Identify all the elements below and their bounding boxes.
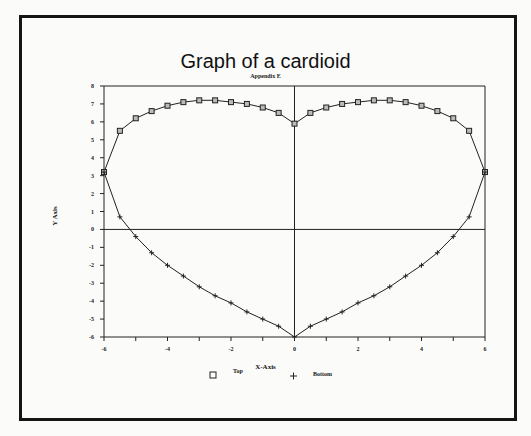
square-marker-icon xyxy=(117,128,122,133)
x-tick-label: -2 xyxy=(229,346,234,352)
y-tick-label: 2 xyxy=(91,191,94,197)
square-marker-icon xyxy=(149,109,154,114)
square-marker-icon xyxy=(324,105,329,110)
x-tick-label: 4 xyxy=(420,346,423,352)
square-marker-icon xyxy=(244,101,249,106)
y-tick-label: 1 xyxy=(91,209,94,215)
y-tick-label: -3 xyxy=(89,280,94,286)
plus-marker-icon xyxy=(324,317,329,322)
square-marker-icon xyxy=(165,103,170,108)
square-marker-icon xyxy=(435,109,440,114)
legend-bottom-marker-icon xyxy=(290,373,297,380)
square-marker-icon xyxy=(387,98,392,103)
square-marker-icon xyxy=(419,103,424,108)
y-axis-label: Y Axis xyxy=(51,206,59,225)
plus-marker-icon xyxy=(229,300,234,305)
plus-marker-icon xyxy=(213,293,218,298)
y-tick-label: 5 xyxy=(91,137,94,143)
y-tick-label: -5 xyxy=(89,316,94,322)
square-marker-icon xyxy=(451,116,456,121)
y-tick-label: 4 xyxy=(91,155,94,161)
plus-marker-icon xyxy=(371,293,376,298)
y-tick-label: 3 xyxy=(91,173,94,179)
square-marker-icon xyxy=(340,101,345,106)
square-marker-icon xyxy=(181,100,186,105)
legend-bottom-label: Bottom xyxy=(313,371,332,377)
x-axis-label: X-Axis xyxy=(0,363,531,371)
square-marker-icon xyxy=(260,105,265,110)
y-tick-label: -6 xyxy=(89,334,94,340)
x-tick-label: 0 xyxy=(293,346,296,352)
y-tick-label: 7 xyxy=(91,101,94,107)
square-marker-icon xyxy=(308,110,313,115)
x-tick-label: 2 xyxy=(357,346,360,352)
square-marker-icon xyxy=(197,98,202,103)
square-marker-icon xyxy=(213,98,218,103)
axes: 876543210-1-2-3-4-5-6-6-4-20246 xyxy=(89,83,487,352)
square-marker-icon xyxy=(292,121,297,126)
y-tick-label: -4 xyxy=(89,298,94,304)
square-marker-icon xyxy=(403,100,408,105)
legend-top-marker-icon xyxy=(210,372,216,378)
y-tick-label: -1 xyxy=(89,244,94,250)
square-marker-icon xyxy=(133,116,138,121)
x-tick-label: -6 xyxy=(102,346,107,352)
plus-marker-icon xyxy=(260,317,265,322)
square-marker-icon xyxy=(467,128,472,133)
legend-top-label: Top xyxy=(233,368,243,374)
y-tick-label: -2 xyxy=(89,262,94,268)
y-tick-label: 6 xyxy=(91,119,94,125)
plus-marker-icon xyxy=(244,309,249,314)
plus-marker-icon xyxy=(340,309,345,314)
y-tick-label: 8 xyxy=(91,83,94,89)
y-tick-label: 0 xyxy=(91,226,94,232)
plus-marker-icon xyxy=(356,300,361,305)
x-tick-label: -4 xyxy=(165,346,170,352)
square-marker-icon xyxy=(276,110,281,115)
square-marker-icon xyxy=(371,98,376,103)
square-marker-icon xyxy=(229,100,234,105)
square-marker-icon xyxy=(356,100,361,105)
x-tick-label: 6 xyxy=(484,346,487,352)
